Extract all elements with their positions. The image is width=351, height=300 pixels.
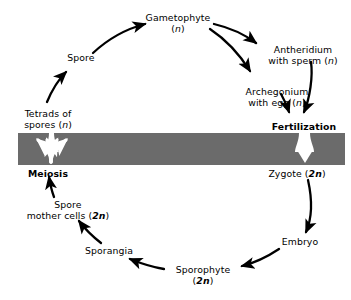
embryo-label: Embryo bbox=[282, 236, 318, 247]
arrow-spore-mother-cells-to-meiosis bbox=[49, 177, 54, 197]
sporangia-label: Sporangia bbox=[85, 245, 133, 256]
node-sporangia: Sporangia bbox=[85, 245, 133, 256]
antheridium-line2: with sperm (n) bbox=[268, 55, 337, 66]
life-cycle-diagram: Gametophyte (n) Antheridium with sperm (… bbox=[0, 0, 351, 300]
tetrads-line1: Tetrads of bbox=[25, 108, 72, 119]
gametophyte-line2: (n) bbox=[171, 23, 184, 34]
node-meiosis: Meiosis bbox=[28, 168, 68, 179]
arrow-zygote-to-embryo bbox=[306, 180, 311, 232]
gametophyte-line1: Gametophyte bbox=[146, 12, 211, 23]
arrow-tetrads-to-spore bbox=[47, 72, 66, 102]
arrow-sporangia-to-spore-mother-cells bbox=[79, 221, 101, 243]
antheridium-line1: Antheridium bbox=[274, 44, 332, 55]
node-zygote: Zygote (2n) bbox=[268, 168, 325, 179]
node-gametophyte: Gametophyte (n) bbox=[146, 12, 211, 35]
arrow-spore-to-gametophyte bbox=[93, 24, 145, 53]
arrow-embryo-to-sporophyte bbox=[242, 249, 279, 266]
meiosis-label: Meiosis bbox=[28, 168, 68, 179]
zygote-label: Zygote (2n) bbox=[268, 168, 325, 179]
spore-label: Spore bbox=[67, 52, 94, 63]
node-spore: Spore bbox=[67, 52, 94, 63]
archegonium-line1: Archegonium bbox=[246, 86, 309, 97]
arrow-gametophyte-to-antheridium bbox=[214, 24, 256, 43]
ploidy-band bbox=[18, 133, 345, 165]
node-sporophyte: Sporophyte (2n) bbox=[176, 264, 230, 287]
spore-mother-cells-line2: mother cells (2n) bbox=[27, 210, 110, 221]
node-fertilization: Fertilization bbox=[272, 121, 337, 132]
sporophyte-line2: (2n) bbox=[193, 275, 214, 286]
node-antheridium: Antheridium with sperm (n) bbox=[268, 44, 337, 67]
node-archegonium: Archegonium with egg (n) bbox=[246, 86, 309, 109]
spore-mother-cells-line1: Spore bbox=[54, 199, 81, 210]
node-spore-mother-cells: Spore mother cells (2n) bbox=[27, 199, 110, 222]
sporophyte-line1: Sporophyte bbox=[176, 264, 230, 275]
node-tetrads: Tetrads of spores (n) bbox=[24, 108, 72, 131]
tetrads-line2: spores (n) bbox=[24, 119, 72, 130]
archegonium-line2: with egg (n) bbox=[248, 97, 306, 108]
fertilization-label: Fertilization bbox=[272, 121, 337, 132]
arrow-sporophyte-to-sporangia bbox=[130, 259, 164, 269]
node-embryo: Embryo bbox=[282, 236, 318, 247]
